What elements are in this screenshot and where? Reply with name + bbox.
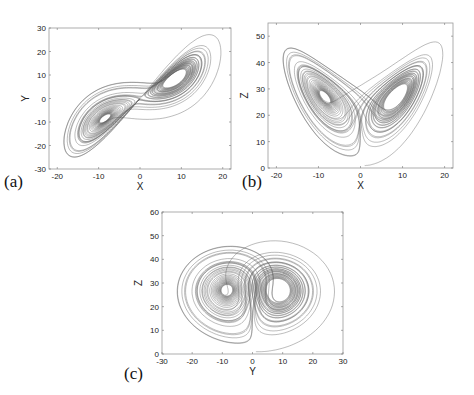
- y-tick-label: 30: [150, 279, 159, 288]
- plot-c: -30-20-1001020300102030405060YZ: [0, 0, 474, 395]
- y-tick-label: 10: [150, 326, 159, 335]
- y-tick-label: 50: [150, 232, 159, 241]
- x-tick-label: -10: [217, 357, 229, 366]
- x-tick-label: 20: [308, 357, 317, 366]
- y-tick-label: 60: [150, 208, 159, 217]
- x-axis-label-c: Y: [249, 366, 256, 377]
- y-tick-label: 40: [150, 255, 159, 264]
- panel-label-c: (c): [124, 364, 143, 384]
- y-axis-label-c: Z: [133, 280, 144, 286]
- attractor-curve-c: [177, 241, 334, 352]
- y-tick-label: 20: [150, 303, 159, 312]
- y-tick-label: 0: [155, 350, 160, 359]
- x-tick-label: 30: [339, 357, 348, 366]
- x-tick-label: 10: [278, 357, 287, 366]
- x-tick-label: 0: [250, 357, 255, 366]
- x-tick-label: -20: [186, 357, 198, 366]
